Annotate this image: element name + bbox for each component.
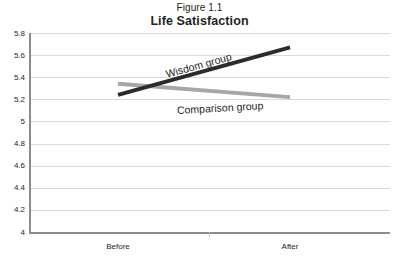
wisdom-group-line bbox=[118, 47, 290, 95]
figure-container: Figure 1.1 Life Satisfaction 44.24.44.64… bbox=[0, 0, 399, 262]
series-plot bbox=[0, 0, 399, 262]
